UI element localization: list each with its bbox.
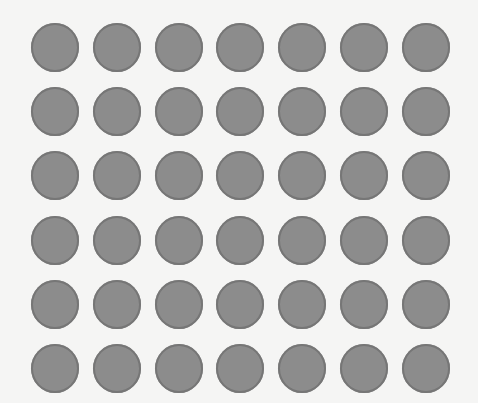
circle-dot bbox=[278, 216, 326, 265]
circle-dot bbox=[340, 344, 388, 393]
circle-dot bbox=[31, 151, 79, 200]
circle-dot bbox=[216, 344, 264, 393]
circle-dot bbox=[216, 87, 264, 136]
circle-dot bbox=[340, 280, 388, 329]
circle-dot bbox=[340, 151, 388, 200]
circle-dot bbox=[278, 280, 326, 329]
circle-dot bbox=[402, 87, 450, 136]
circle-dot bbox=[216, 151, 264, 200]
circle-dot bbox=[31, 23, 79, 72]
circle-dot bbox=[402, 344, 450, 393]
circle-dot bbox=[93, 151, 141, 200]
circle-dot bbox=[155, 280, 203, 329]
circle-dot bbox=[93, 87, 141, 136]
circle-dot bbox=[402, 280, 450, 329]
circle-dot bbox=[340, 23, 388, 72]
circle-dot bbox=[155, 216, 203, 265]
circle-dot bbox=[340, 216, 388, 265]
circle-dot bbox=[155, 344, 203, 393]
circle-dot bbox=[31, 280, 79, 329]
circle-dot bbox=[31, 216, 79, 265]
circle-dot bbox=[402, 151, 450, 200]
circle-dot bbox=[155, 87, 203, 136]
circle-dot bbox=[155, 23, 203, 72]
circle-dot bbox=[155, 151, 203, 200]
circle-dot bbox=[93, 280, 141, 329]
circle-dot bbox=[216, 23, 264, 72]
circle-dot bbox=[93, 216, 141, 265]
circle-dot bbox=[402, 216, 450, 265]
circle-dot bbox=[216, 280, 264, 329]
circle-dot bbox=[278, 87, 326, 136]
circle-dot bbox=[31, 87, 79, 136]
circle-dot bbox=[93, 23, 141, 72]
circle-dot bbox=[340, 87, 388, 136]
circle-dot bbox=[278, 23, 326, 72]
circle-dot bbox=[93, 344, 141, 393]
circle-dot bbox=[278, 344, 326, 393]
circle-dot bbox=[402, 23, 450, 72]
circle-dot bbox=[278, 151, 326, 200]
circle-dot bbox=[216, 216, 264, 265]
circle-dot bbox=[31, 344, 79, 393]
